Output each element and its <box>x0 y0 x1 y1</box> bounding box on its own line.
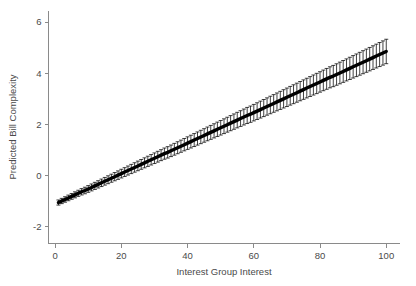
x-tick-label: 40 <box>182 250 193 261</box>
y-axis-title: Predicted Bill Complexity <box>7 74 18 179</box>
y-tick-label: 6 <box>36 16 41 27</box>
x-tick-label: 60 <box>249 250 260 261</box>
x-tick-label: 100 <box>378 250 394 261</box>
chart-figure: -20246 020406080100 Interest Group Inter… <box>0 0 416 286</box>
y-tick-label: 2 <box>36 119 41 130</box>
x-tick-label: 20 <box>116 250 127 261</box>
x-axis-title: Interest Group Interest <box>176 266 271 277</box>
predicted-bill-complexity-plot: -20246 020406080100 Interest Group Inter… <box>0 0 416 286</box>
x-tick-label: 80 <box>315 250 326 261</box>
y-tick-label: 0 <box>36 170 41 181</box>
y-tick-label: 4 <box>36 68 41 79</box>
y-tick-label: -2 <box>33 221 41 232</box>
x-tick-label: 0 <box>52 250 57 261</box>
